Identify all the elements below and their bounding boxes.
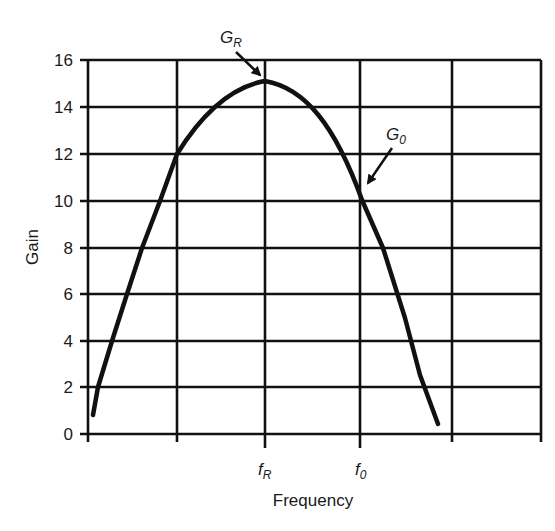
- x-tick-fR-sub: R: [263, 468, 272, 482]
- y-tick-12: 12: [54, 145, 73, 164]
- y-tick-2: 2: [64, 378, 73, 397]
- y-tick-6: 6: [64, 285, 73, 304]
- x-axis-tick-labels: fR f0: [258, 460, 367, 482]
- annotation-GR-arrow: [236, 52, 260, 75]
- annotation-G0-main: G: [386, 125, 399, 144]
- annotation-GR-label: GR: [220, 28, 242, 50]
- horizontal-gridlines: [80, 60, 541, 434]
- annotation-GR-main: G: [220, 28, 233, 47]
- y-axis-tick-labels: 16 14 12 10 8 6 4 2 0: [54, 51, 73, 444]
- y-tick-8: 8: [64, 239, 73, 258]
- x-tick-f0-sub: 0: [360, 468, 367, 482]
- y-tick-14: 14: [54, 98, 73, 117]
- x-axis-title: Frequency: [273, 491, 354, 510]
- annotation-G0-sub: 0: [399, 133, 406, 147]
- y-tick-16: 16: [54, 51, 73, 70]
- y-tick-10: 10: [54, 192, 73, 211]
- gain-frequency-chart: 16 14 12 10 8 6 4 2 0 Gain fR f0 Frequen…: [0, 0, 555, 531]
- y-tick-4: 4: [64, 332, 73, 351]
- vertical-gridlines: [88, 60, 541, 448]
- annotation-G0-label: G0: [386, 125, 406, 147]
- annotation-GR-sub: R: [233, 36, 242, 50]
- y-tick-0: 0: [64, 425, 73, 444]
- y-axis-title: Gain: [23, 229, 42, 265]
- x-tick-f0: f0: [355, 460, 367, 482]
- annotation-GR: GR: [220, 28, 260, 75]
- x-tick-fR: fR: [258, 460, 272, 482]
